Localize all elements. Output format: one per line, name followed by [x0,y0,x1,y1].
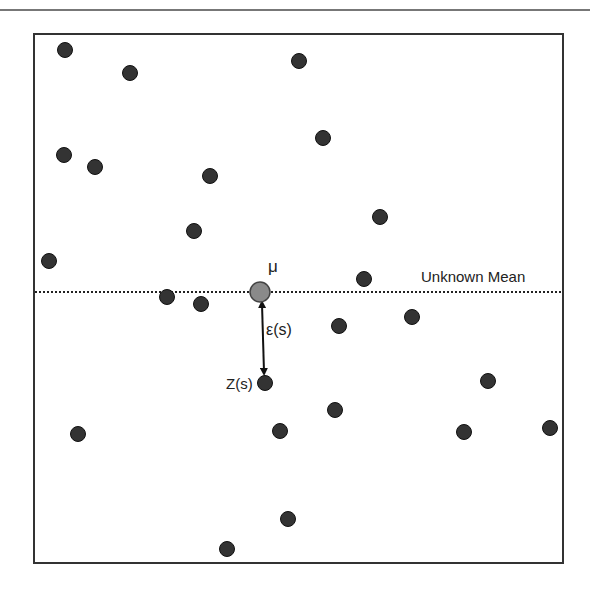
sample-point [543,421,558,436]
sample-point [220,542,235,557]
mean-point [250,282,270,302]
unknown-mean-label: Unknown Mean [421,269,525,284]
sample-point [292,54,307,69]
sample-points [42,43,558,557]
sample-point [373,210,388,225]
sample-point [258,376,273,391]
sample-point [187,224,202,239]
sample-point [203,169,218,184]
sample-point [281,512,296,527]
sample-point [88,160,103,175]
error-label: ε(s) [266,322,292,338]
mean-symbol-label: μ [268,258,278,275]
sample-point [481,374,496,389]
sample-point [457,425,472,440]
sample-point [328,403,343,418]
sample-point [160,290,175,305]
sample-point [42,254,57,269]
sample-point [57,148,72,163]
diagram-canvas [0,0,590,594]
sample-point [357,272,372,287]
sample-point [332,319,347,334]
sample-point [273,424,288,439]
observation-label: Z(s) [226,376,253,391]
sample-point [405,310,420,325]
sample-point [123,66,138,81]
sample-point [316,131,331,146]
sample-point [58,43,73,58]
sample-point [71,427,86,442]
error-arrow [262,304,264,372]
sample-point [194,297,209,312]
